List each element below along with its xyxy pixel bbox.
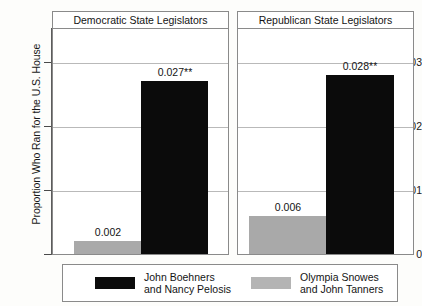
panel-republican: Republican State Legislators 0.006 0.028…	[237, 11, 414, 255]
y-tick-mark-0	[44, 254, 51, 255]
legend-swatch-black-icon	[95, 277, 135, 289]
bar-republican-gray	[249, 216, 326, 254]
bar-label-democratic-black: 0.027**	[158, 66, 192, 78]
panel-title-republican: Republican State Legislators	[238, 12, 413, 29]
bar-label-republican-gray: 0.006	[275, 201, 301, 213]
legend-swatch-gray-icon	[251, 277, 291, 289]
y-tick-mark-003	[44, 62, 51, 63]
legend-label-line1: John Boehners	[144, 271, 231, 284]
legend-label-snowe-tanner: Olympia Snowes and John Tanners	[300, 271, 383, 296]
legend-label-line1: Olympia Snowes	[300, 271, 383, 284]
y-axis-title: Proportion Who Ran for the U.S. House	[30, 14, 42, 254]
bar-democratic-gray	[74, 241, 141, 254]
y-tick-mark-002	[44, 126, 51, 127]
panel-democratic: Democratic State Legislators 0.002 0.027…	[52, 11, 229, 255]
bar-label-republican-black: 0.028**	[343, 60, 377, 72]
chart-legend: John Boehners and Nancy Pelosis Olympia …	[62, 264, 398, 302]
legend-entry-boehner-pelosi: John Boehners and Nancy Pelosis	[63, 271, 243, 296]
legend-label-line2: and Nancy Pelosis	[144, 283, 231, 296]
plot-area-democratic: 0.002 0.027**	[53, 29, 228, 254]
bar-democratic-black	[141, 81, 208, 254]
bar-label-democratic-gray: 0.002	[95, 226, 121, 238]
legend-label-boehner-pelosi: John Boehners and Nancy Pelosis	[144, 271, 231, 296]
plot-area-republican: 0.006 0.028**	[238, 29, 413, 254]
gridline-003	[238, 63, 413, 64]
gridline-003	[53, 63, 228, 64]
panel-title-democratic: Democratic State Legislators	[53, 12, 228, 29]
legend-label-line2: and John Tanners	[300, 283, 383, 296]
bar-republican-black	[326, 75, 394, 254]
y-tick-mark-001	[44, 190, 51, 191]
legend-entry-snowe-tanner: Olympia Snowes and John Tanners	[243, 271, 397, 296]
bar-chart-figure: Proportion Who Ran for the U.S. House 0.…	[0, 0, 422, 306]
